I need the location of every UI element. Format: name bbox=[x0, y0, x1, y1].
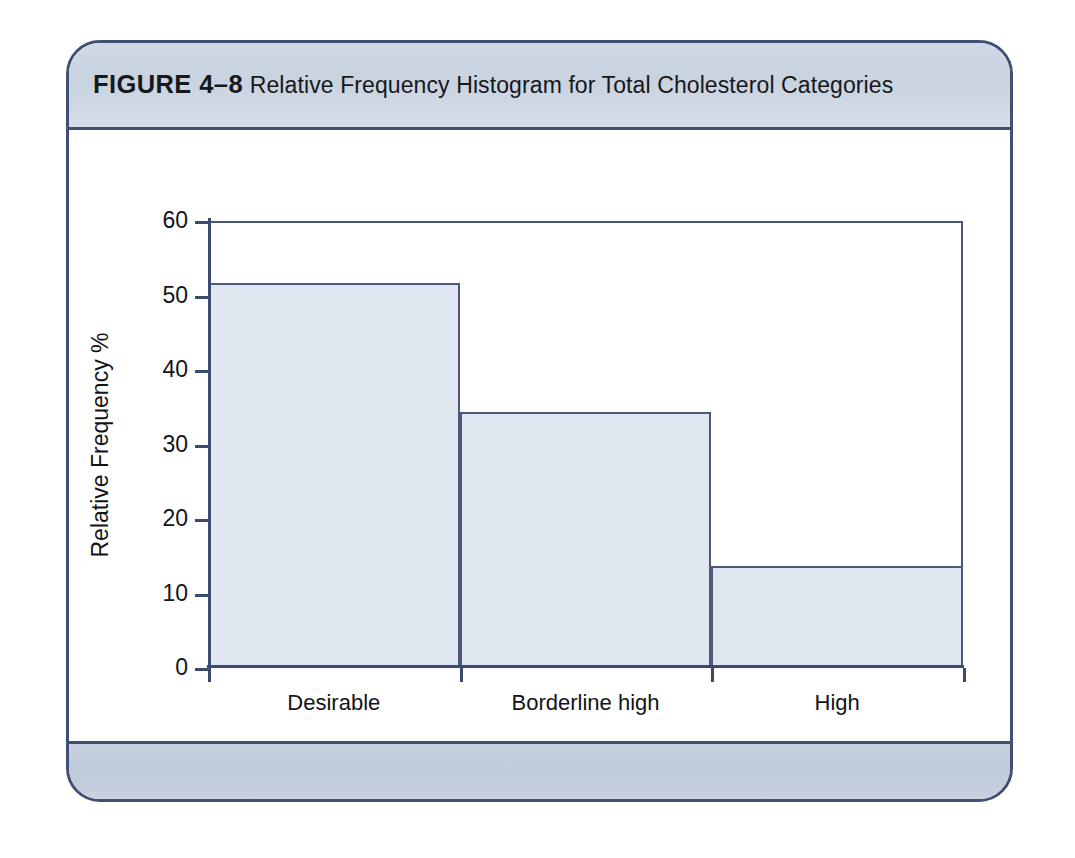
bar-borderline-high bbox=[460, 412, 712, 668]
y-tick-60 bbox=[195, 221, 208, 224]
x-divider-tick-2 bbox=[711, 668, 714, 682]
figure-frame: FIGURE 4–8 Relative Frequency Histogram … bbox=[66, 40, 1013, 802]
plot-area: 0102030405060 DesirableBorderline highHi… bbox=[208, 221, 963, 668]
x-edge-tick-0 bbox=[208, 668, 211, 682]
plot-top-rule bbox=[208, 221, 963, 223]
figure-page: FIGURE 4–8 Relative Frequency Histogram … bbox=[0, 0, 1075, 858]
x-axis-line bbox=[207, 665, 964, 668]
x-category-label-high: High bbox=[815, 690, 860, 716]
y-axis-title: Relative Frequency % bbox=[87, 332, 114, 557]
y-tick-30 bbox=[195, 445, 208, 448]
x-category-label-desirable: Desirable bbox=[287, 690, 380, 716]
bar-desirable bbox=[208, 283, 460, 668]
x-category-label-borderline-high: Borderline high bbox=[512, 690, 660, 716]
figure-caption: FIGURE 4–8 Relative Frequency Histogram … bbox=[93, 70, 893, 99]
bar-high bbox=[711, 566, 963, 668]
y-tick-label-40: 40 bbox=[162, 356, 188, 383]
y-tick-label-0: 0 bbox=[175, 654, 188, 681]
y-tick-label-60: 60 bbox=[162, 207, 188, 234]
y-tick-50 bbox=[195, 296, 208, 299]
x-edge-tick-3 bbox=[963, 668, 966, 682]
y-tick-label-10: 10 bbox=[162, 579, 188, 606]
y-tick-label-30: 30 bbox=[162, 430, 188, 457]
y-tick-10 bbox=[195, 594, 208, 597]
y-tick-0 bbox=[195, 668, 208, 671]
x-divider-tick-1 bbox=[460, 668, 463, 682]
y-tick-label-20: 20 bbox=[162, 505, 188, 532]
figure-footer-band bbox=[69, 741, 1010, 799]
y-tick-20 bbox=[195, 519, 208, 522]
figure-caption-text: Relative Frequency Histogram for Total C… bbox=[250, 72, 894, 98]
figure-number-label: FIGURE 4–8 bbox=[93, 70, 243, 98]
y-tick-label-50: 50 bbox=[162, 281, 188, 308]
chart-canvas: 0102030405060 DesirableBorderline highHi… bbox=[69, 130, 1010, 741]
figure-header-band: FIGURE 4–8 Relative Frequency Histogram … bbox=[69, 43, 1010, 130]
y-tick-40 bbox=[195, 370, 208, 373]
y-axis-line bbox=[208, 218, 211, 668]
